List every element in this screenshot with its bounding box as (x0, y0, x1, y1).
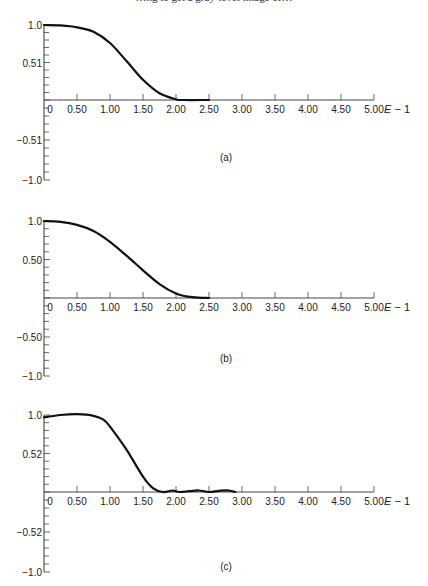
x-tick-label: 2.50 (199, 496, 219, 507)
x-tick-label: 3.50 (265, 104, 285, 115)
x-tick-label: 0 (47, 104, 53, 115)
y-tick-label: 0.50 (23, 255, 43, 266)
x-tick-label: 0 (47, 496, 53, 507)
x-tick-label: 2.50 (199, 104, 219, 115)
x-tick-label: 4.50 (331, 104, 351, 115)
y-tick-label: −1.0 (22, 567, 42, 578)
x-axis-title: E − 1 (384, 301, 410, 313)
x-tick-label: 4.00 (298, 496, 318, 507)
x-tick-label: 0 (47, 302, 53, 313)
x-tick-label: 2.00 (166, 496, 186, 507)
x-tick-label: 4.50 (331, 496, 351, 507)
x-tick-label: 3.50 (265, 496, 285, 507)
x-tick-label: 5.00 (364, 496, 384, 507)
y-tick-label: −0.51 (17, 135, 43, 146)
chart-panel-a: 1.00.51−0.51−1.000.501.001.502.002.503.0… (17, 20, 410, 186)
panel-caption: (c) (220, 561, 232, 572)
panel-caption: (a) (220, 152, 232, 163)
x-tick-label: 2.50 (199, 302, 219, 313)
y-tick-label: 0.51 (23, 58, 43, 69)
y-tick-label: 1.0 (28, 20, 42, 31)
x-tick-label: 5.00 (364, 302, 384, 313)
x-tick-label: 4.50 (331, 302, 351, 313)
x-tick-label: 1.00 (100, 104, 120, 115)
x-tick-label: 1.00 (100, 302, 120, 313)
x-tick-label: 4.00 (298, 104, 318, 115)
x-tick-label: 0.50 (67, 104, 87, 115)
y-tick-label: −1.0 (22, 371, 42, 382)
y-tick-label: −0.52 (17, 527, 43, 538)
data-curve (44, 414, 235, 492)
x-tick-label: 1.50 (133, 302, 153, 313)
x-tick-label: 2.00 (166, 104, 186, 115)
x-tick-label: 1.00 (100, 496, 120, 507)
data-curve (44, 221, 209, 298)
x-axis-title: E − 1 (384, 495, 410, 507)
x-tick-label: 2.00 (166, 302, 186, 313)
x-tick-label: 3.50 (265, 302, 285, 313)
x-tick-label: 0.50 (67, 496, 87, 507)
y-tick-label: 0.52 (23, 449, 43, 460)
x-tick-label: 5.00 (364, 104, 384, 115)
chart-figure: 1.00.51−0.51−1.000.501.001.502.002.503.0… (0, 0, 428, 586)
panel-caption: (b) (220, 353, 232, 364)
y-tick-label: 1.0 (28, 410, 42, 421)
y-tick-label: −0.50 (17, 332, 43, 343)
x-tick-label: 3.00 (232, 302, 252, 313)
x-axis-title: E − 1 (384, 103, 410, 115)
x-tick-label: 3.00 (232, 104, 252, 115)
x-tick-label: 1.50 (133, 496, 153, 507)
chart-panel-b: 1.00.50−0.50−1.000.501.001.502.002.503.0… (17, 216, 410, 382)
y-tick-label: 1.0 (28, 216, 42, 227)
y-tick-label: −1.0 (22, 175, 42, 186)
x-tick-label: 1.50 (133, 104, 153, 115)
chart-panel-c: 1.00.52−0.52−1.000.501.001.502.002.503.0… (17, 410, 410, 578)
x-tick-label: 3.00 (232, 496, 252, 507)
x-tick-label: 4.00 (298, 302, 318, 313)
data-curve (44, 25, 209, 100)
x-tick-label: 0.50 (67, 302, 87, 313)
